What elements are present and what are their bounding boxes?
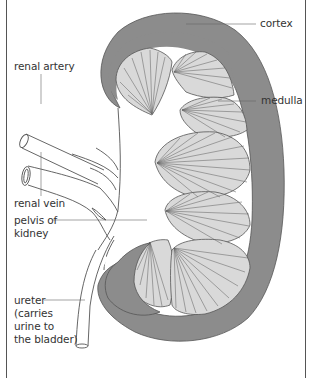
label-pelvis-of-kidney: pelvis of kidney [14, 214, 57, 240]
label-cortex: cortex [260, 17, 293, 30]
label-renal-vein: renal vein [14, 197, 65, 210]
label-ureter: ureter (carries urine to the bladder) [14, 294, 78, 346]
label-renal-artery: renal artery [14, 60, 75, 73]
label-medulla: medulla [261, 94, 303, 107]
